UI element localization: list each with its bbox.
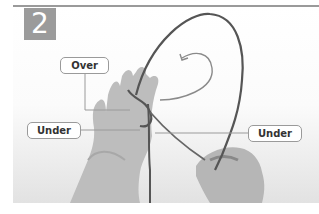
step-number-badge: 2 [24,8,56,40]
under-left-label: Under [27,122,81,139]
rope-standing-part [148,104,150,203]
curved-arrow-icon [160,53,212,100]
under-right-label: Under [248,125,302,142]
left-hand-shape [70,67,158,203]
right-hand-shape [196,147,264,203]
rope-working-end [150,112,205,160]
over-label: Over [60,57,109,74]
